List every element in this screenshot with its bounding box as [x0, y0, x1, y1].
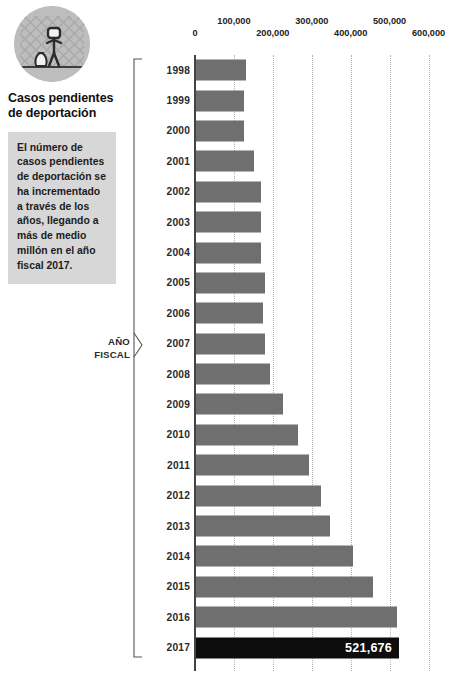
bar[interactable] — [196, 485, 321, 506]
chart-row[interactable]: 2010 — [0, 420, 451, 450]
bar[interactable] — [196, 455, 309, 476]
x-axis-tick-label: 0 — [192, 28, 197, 38]
row-year-label: 2014 — [148, 551, 190, 562]
row-year-label: 1999 — [148, 95, 190, 106]
bar[interactable] — [196, 272, 265, 293]
chart-row[interactable]: 2012 — [0, 480, 451, 510]
row-year-label: 2002 — [148, 186, 190, 197]
bar[interactable] — [196, 333, 265, 354]
chart-row[interactable]: 2013 — [0, 511, 451, 541]
row-year-label: 2010 — [148, 429, 190, 440]
chart-row[interactable]: 2008 — [0, 359, 451, 389]
bar[interactable] — [196, 303, 263, 324]
chart-row[interactable]: 2005 — [0, 268, 451, 298]
chart-row[interactable]: 2014 — [0, 541, 451, 571]
x-axis-tick-label: 500,000 — [373, 16, 406, 26]
x-axis-tick-label: 600,000 — [412, 28, 445, 38]
infographic-page: Casos pendientes de deportación El númer… — [0, 0, 451, 694]
chart-row[interactable]: 2007 — [0, 329, 451, 359]
x-axis-tick-labels: 0100,000200,000300,000400,000500,000600,… — [186, 16, 448, 42]
chart-row[interactable]: 2016 — [0, 602, 451, 632]
bar-value-label: 521,676 — [345, 641, 392, 655]
row-year-label: 2007 — [148, 338, 190, 349]
row-year-label: 2006 — [148, 308, 190, 319]
bar[interactable] — [196, 364, 270, 385]
chart-row[interactable]: 2004 — [0, 237, 451, 267]
bar-chart: 0100,000200,000300,000400,000500,000600,… — [0, 0, 451, 694]
bar[interactable] — [196, 516, 330, 537]
x-axis-tick-label: 400,000 — [334, 28, 367, 38]
bar[interactable] — [196, 394, 283, 415]
row-year-label: 2016 — [148, 612, 190, 623]
row-year-label: 2005 — [148, 277, 190, 288]
bar[interactable] — [196, 242, 261, 263]
bar[interactable] — [196, 60, 246, 81]
bar[interactable] — [196, 120, 244, 141]
row-year-label: 2000 — [148, 125, 190, 136]
row-year-label: 2017 — [148, 642, 190, 653]
row-year-label: 2004 — [148, 247, 190, 258]
x-axis-tick-label: 300,000 — [295, 16, 328, 26]
chart-rows: 1998199920002001200220032004200520062007… — [0, 55, 451, 663]
row-year-label: 2012 — [148, 490, 190, 501]
x-axis-tick-label: 200,000 — [256, 28, 289, 38]
bar[interactable] — [196, 424, 298, 445]
chart-row[interactable]: 2015 — [0, 572, 451, 602]
row-year-label: 2013 — [148, 521, 190, 532]
row-year-label: 1998 — [148, 65, 190, 76]
bar-highlighted[interactable]: 521,676 — [196, 637, 399, 658]
chart-row[interactable]: 2017521,676 — [0, 632, 451, 662]
row-year-label: 2003 — [148, 217, 190, 228]
row-year-label: 2009 — [148, 399, 190, 410]
chart-row[interactable]: 2006 — [0, 298, 451, 328]
bar[interactable] — [196, 576, 373, 597]
x-axis-tick-label: 100,000 — [217, 16, 250, 26]
bar[interactable] — [196, 90, 244, 111]
chart-row[interactable]: 2002 — [0, 177, 451, 207]
bar[interactable] — [196, 212, 261, 233]
bar[interactable] — [196, 546, 353, 567]
chart-row[interactable]: 2011 — [0, 450, 451, 480]
chart-row[interactable]: 2001 — [0, 146, 451, 176]
bar[interactable] — [196, 607, 397, 628]
chart-row[interactable]: 1998 — [0, 55, 451, 85]
row-year-label: 2001 — [148, 156, 190, 167]
row-year-label: 2011 — [148, 460, 190, 471]
row-year-label: 2015 — [148, 581, 190, 592]
bar[interactable] — [196, 151, 254, 172]
row-year-label: 2008 — [148, 369, 190, 380]
chart-row[interactable]: 1999 — [0, 85, 451, 115]
chart-row[interactable]: 2009 — [0, 389, 451, 419]
chart-row[interactable]: 2000 — [0, 116, 451, 146]
chart-row[interactable]: 2003 — [0, 207, 451, 237]
bar[interactable] — [196, 181, 261, 202]
